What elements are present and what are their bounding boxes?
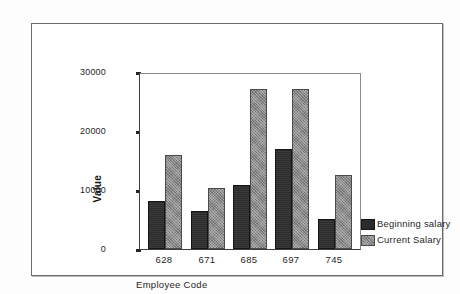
x-tick-label: 671 (187, 255, 227, 265)
x-tick-label: 697 (271, 255, 311, 265)
legend-swatch (361, 235, 375, 246)
legend-label: Beginning salary (377, 219, 450, 229)
bar-group (191, 188, 225, 249)
chart-legend: Beginning salaryCurrent Salary (361, 216, 450, 248)
bar-group (318, 175, 352, 249)
y-tick-label: 20000 (80, 127, 106, 136)
bars-layer (140, 74, 360, 249)
legend-item[interactable]: Current Salary (361, 232, 450, 248)
y-tick-label: 10000 (80, 186, 106, 195)
bar[interactable] (275, 149, 292, 249)
bar-group (275, 89, 309, 249)
bar-group (233, 89, 267, 249)
legend-label: Current Salary (377, 235, 441, 245)
legend-swatch (361, 219, 375, 230)
y-tick-label: 30000 (80, 68, 106, 77)
x-tick-label: 685 (229, 255, 269, 265)
bar[interactable] (292, 89, 309, 249)
bar[interactable] (250, 89, 267, 249)
x-axis-title: Employee Code (136, 279, 208, 290)
bar-group (148, 155, 182, 249)
bar[interactable] (335, 175, 352, 249)
bar[interactable] (191, 211, 208, 249)
bar[interactable] (148, 201, 165, 249)
bar[interactable] (208, 188, 225, 249)
chart-figure-frame: Value 0100002000030000 628671685697745 E… (31, 23, 443, 276)
x-tick-label: 745 (314, 255, 354, 265)
plot-area (139, 73, 361, 250)
bar[interactable] (165, 155, 182, 249)
y-tick-label: 0 (101, 245, 106, 254)
bar[interactable] (318, 219, 335, 249)
legend-item[interactable]: Beginning salary (361, 216, 450, 232)
bar[interactable] (233, 185, 250, 249)
x-tick-label: 628 (144, 255, 184, 265)
